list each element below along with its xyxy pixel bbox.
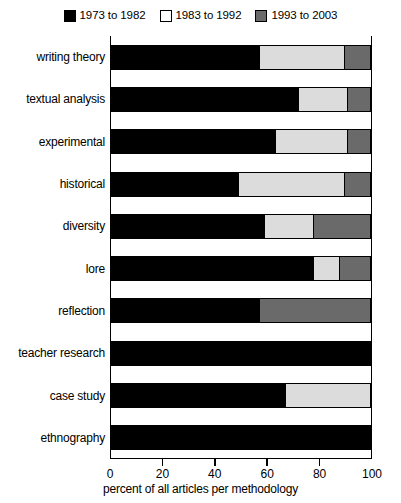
legend-item: 1973 to 1982 xyxy=(64,10,146,22)
x-axis-tick xyxy=(319,459,321,466)
bar-segment xyxy=(259,46,344,69)
bar-segment xyxy=(112,342,370,365)
bar-segment xyxy=(112,426,370,449)
x-axis-tick xyxy=(162,459,164,466)
legend-swatch-icon xyxy=(160,10,172,22)
y-axis-label: reflection xyxy=(0,290,105,332)
stacked-bar xyxy=(111,87,371,112)
y-axis-label: teacher research xyxy=(0,332,105,374)
x-axis-tick-label: 0 xyxy=(107,466,114,482)
bar-segment xyxy=(112,299,259,322)
bar-row xyxy=(111,163,371,205)
stacked-bar xyxy=(111,383,371,408)
stacked-bar-chart: 1973 to 19821983 to 19921993 to 2003 wri… xyxy=(0,0,401,503)
legend-item: 1993 to 2003 xyxy=(255,10,337,22)
stacked-bar xyxy=(111,256,371,281)
bar-row xyxy=(111,332,371,374)
y-axis-label: writing theory xyxy=(0,36,105,78)
x-axis-title: percent of all articles per methodology xyxy=(0,482,401,496)
y-axis-label: experimental xyxy=(0,121,105,163)
y-axis-label: ethnography xyxy=(0,417,105,459)
x-axis-tick-label: 100 xyxy=(362,466,382,482)
stacked-bar xyxy=(111,172,371,197)
plot-area xyxy=(110,36,372,459)
bar-segment xyxy=(347,130,370,153)
bar-segment xyxy=(298,88,347,111)
y-axis-category-labels: writing theorytextual analysisexperiment… xyxy=(0,36,105,459)
chart-legend: 1973 to 19821983 to 19921993 to 2003 xyxy=(0,10,401,22)
bar-segment xyxy=(112,173,238,196)
bar-row xyxy=(111,290,371,332)
y-axis-label: lore xyxy=(0,248,105,290)
x-axis-tick-labels: 020406080100 xyxy=(110,466,372,482)
stacked-bar xyxy=(111,425,371,450)
bar-segment xyxy=(264,215,313,238)
legend-label: 1983 to 1992 xyxy=(176,10,242,22)
bar-row xyxy=(111,374,371,416)
legend-label: 1993 to 2003 xyxy=(271,10,337,22)
bar-segment xyxy=(347,88,370,111)
bar-segment xyxy=(259,299,370,322)
bar-row xyxy=(111,248,371,290)
x-axis-ticks xyxy=(110,459,372,466)
legend-swatch-icon xyxy=(255,10,267,22)
stacked-bar xyxy=(111,214,371,239)
bar-segment xyxy=(112,88,298,111)
bar-rows xyxy=(111,36,371,458)
x-axis-tick-label: 40 xyxy=(208,466,221,482)
bar-row xyxy=(111,121,371,163)
y-axis-label: case study xyxy=(0,374,105,416)
legend-label: 1973 to 1982 xyxy=(80,10,146,22)
stacked-bar xyxy=(111,129,371,154)
bar-segment xyxy=(313,215,370,238)
bar-row xyxy=(111,417,371,459)
bar-segment xyxy=(285,384,370,407)
y-axis-label: textual analysis xyxy=(0,78,105,120)
legend-swatch-icon xyxy=(64,10,76,22)
bar-row xyxy=(111,205,371,247)
bar-segment xyxy=(313,257,339,280)
x-axis-tick-label: 20 xyxy=(156,466,169,482)
y-axis-label: historical xyxy=(0,163,105,205)
stacked-bar xyxy=(111,298,371,323)
bar-segment xyxy=(238,173,344,196)
bar-segment xyxy=(112,257,313,280)
stacked-bar xyxy=(111,341,371,366)
bar-segment xyxy=(112,384,285,407)
bar-segment xyxy=(275,130,347,153)
bar-segment xyxy=(112,215,264,238)
bar-segment xyxy=(112,46,259,69)
bar-segment xyxy=(344,173,370,196)
bar-row xyxy=(111,36,371,78)
bar-segment xyxy=(339,257,370,280)
legend-item: 1983 to 1992 xyxy=(160,10,242,22)
y-axis-label: diversity xyxy=(0,205,105,247)
x-axis-tick-label: 80 xyxy=(313,466,326,482)
stacked-bar xyxy=(111,45,371,70)
x-axis-tick xyxy=(266,459,268,466)
bar-segment xyxy=(344,46,370,69)
bar-segment xyxy=(112,130,275,153)
x-axis-tick-label: 60 xyxy=(261,466,274,482)
bar-row xyxy=(111,78,371,120)
x-axis-tick xyxy=(214,459,216,466)
